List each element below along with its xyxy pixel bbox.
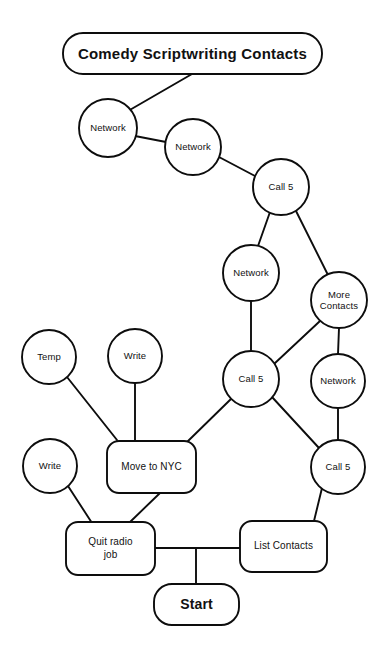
diagram-edge	[129, 493, 160, 523]
flow-diagram: Comedy Scriptwriting ContactsNetworkNetw…	[0, 0, 388, 661]
diagram-edge	[258, 212, 270, 246]
nodes-layer	[22, 33, 367, 625]
diagram-node-write-lower[interactable]	[23, 439, 77, 493]
diagram-edge	[128, 74, 192, 111]
diagram-node-more-contacts[interactable]	[311, 272, 367, 328]
diagram-edge	[67, 377, 117, 440]
diagram-edge	[272, 397, 319, 448]
diagram-node-title[interactable]	[63, 33, 322, 74]
diagram-node-start[interactable]	[154, 584, 239, 625]
diagram-node-quit-radio-job[interactable]	[66, 522, 155, 575]
diagram-canvas	[0, 0, 388, 661]
diagram-node-call5-mid[interactable]	[223, 351, 279, 407]
diagram-edge	[186, 398, 232, 443]
diagram-edge	[219, 157, 255, 176]
diagram-node-call5-top[interactable]	[253, 159, 309, 215]
diagram-node-network-right[interactable]	[311, 354, 365, 408]
diagram-edge	[314, 488, 322, 521]
diagram-edge	[338, 328, 339, 354]
diagram-node-temp[interactable]	[22, 330, 76, 384]
diagram-edge	[274, 321, 320, 364]
diagram-node-network-top-2[interactable]	[165, 119, 221, 175]
diagram-node-move-to-nyc[interactable]	[107, 441, 196, 493]
diagram-node-list-contacts[interactable]	[240, 521, 327, 572]
diagram-node-network-top-1[interactable]	[79, 99, 137, 157]
diagram-edge	[68, 486, 92, 523]
diagram-node-network-mid[interactable]	[223, 245, 279, 301]
diagram-edge	[296, 211, 328, 275]
diagram-node-call5-bottom[interactable]	[311, 440, 365, 494]
diagram-edge	[135, 136, 166, 142]
diagram-node-write-upper[interactable]	[108, 329, 162, 383]
